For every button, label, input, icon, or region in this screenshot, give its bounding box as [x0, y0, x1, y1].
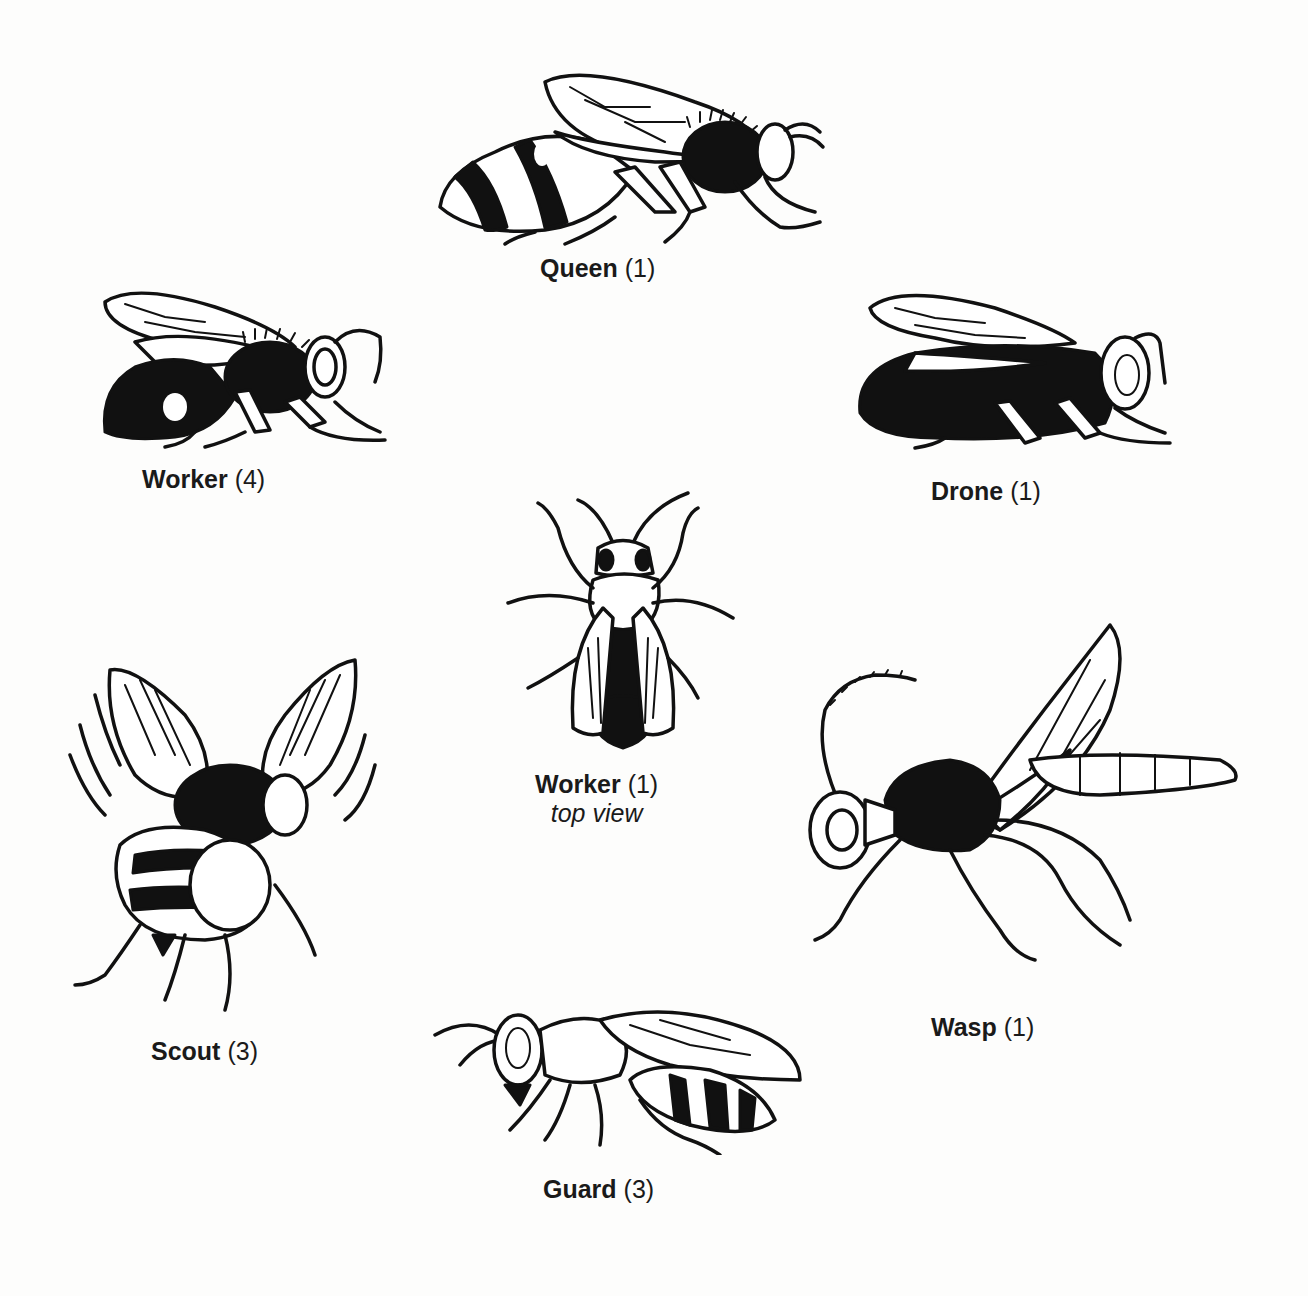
caste-name: Worker	[535, 770, 621, 798]
caste-name: Guard	[543, 1175, 617, 1203]
caste-count: (3)	[624, 1175, 655, 1203]
label-worker-side: Worker (4)	[142, 465, 265, 494]
caste-count: (4)	[235, 465, 266, 493]
label-drone: Drone (1)	[931, 477, 1041, 506]
wasp-icon	[800, 620, 1255, 975]
label-worker-top: Worker (1) top view	[535, 770, 658, 828]
caste-name: Queen	[540, 254, 618, 282]
caste-name: Drone	[931, 477, 1003, 505]
caste-name: Scout	[151, 1037, 220, 1065]
caste-count: (1)	[1010, 477, 1041, 505]
view-caption: top view	[535, 799, 658, 828]
caste-name: Worker	[142, 465, 228, 493]
worker-bee-icon	[95, 282, 390, 452]
wasp-illustration	[800, 620, 1255, 975]
drone-bee-illustration	[855, 283, 1175, 453]
caste-name: Wasp	[931, 1013, 997, 1041]
queen-bee-illustration	[435, 62, 830, 252]
queen-bee-icon	[435, 62, 830, 252]
label-wasp: Wasp (1)	[931, 1013, 1034, 1042]
label-scout: Scout (3)	[151, 1037, 258, 1066]
scout-bee-illustration	[65, 655, 385, 1020]
guard-bee-icon	[430, 990, 805, 1155]
caste-count: (1)	[625, 254, 656, 282]
worker-bee-side-illustration	[95, 282, 390, 452]
label-queen: Queen (1)	[540, 254, 655, 283]
worker-bee-top-illustration	[498, 488, 743, 758]
caste-count: (1)	[1004, 1013, 1035, 1041]
label-guard: Guard (3)	[543, 1175, 654, 1204]
guard-bee-illustration	[430, 990, 805, 1155]
worker-bee-top-view-icon	[498, 488, 743, 758]
drone-bee-icon	[855, 283, 1175, 453]
caste-count: (1)	[628, 770, 659, 798]
scout-bee-icon	[65, 655, 385, 1020]
caste-count: (3)	[227, 1037, 258, 1065]
